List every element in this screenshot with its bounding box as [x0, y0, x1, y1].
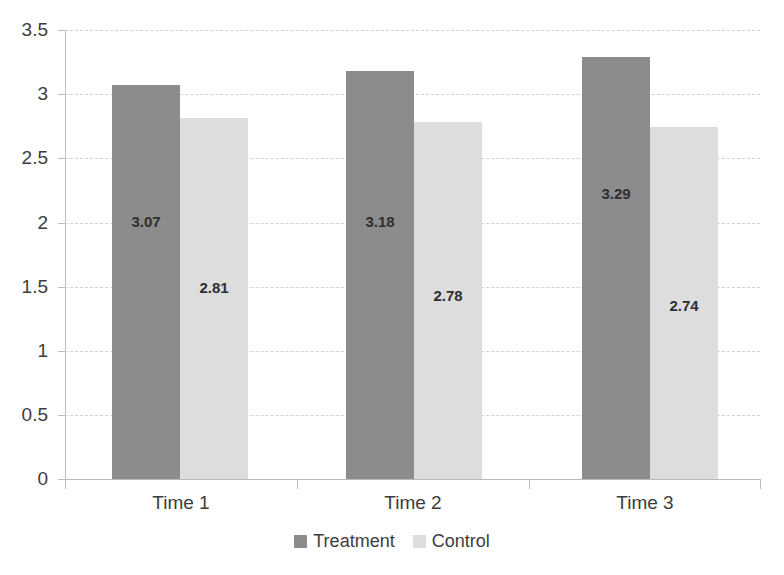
y-axis-label-2-5: 2.5	[0, 148, 48, 167]
y-axis-label-2: 2	[0, 213, 48, 232]
bar-control-time-1[interactable]: 2.81	[180, 118, 248, 479]
x-axis-line	[65, 479, 761, 480]
y-axis-label-3: 3	[0, 84, 48, 103]
x-axis-label-time-3: Time 3	[529, 492, 761, 514]
plot-area: 3.07 2.81 3.18 2.78 3.29 2.74	[65, 30, 760, 479]
x-axis-tick-2	[529, 479, 530, 489]
legend-item-control[interactable]: Control	[413, 531, 490, 552]
bar-value-control-time-3: 2.74	[650, 297, 718, 314]
x-axis-label-time-1: Time 1	[65, 492, 297, 514]
legend-label-control: Control	[432, 531, 490, 552]
bar-treatment-time-1[interactable]: 3.07	[112, 85, 180, 479]
chart-legend: Treatment Control	[0, 531, 784, 552]
bar-value-treatment-time-1: 3.07	[112, 213, 180, 230]
x-axis-tick-end	[760, 479, 761, 489]
legend-item-treatment[interactable]: Treatment	[294, 531, 394, 552]
bar-value-treatment-time-3: 3.29	[582, 185, 650, 202]
gridline-3-5	[65, 30, 760, 31]
bar-control-time-3[interactable]: 2.74	[650, 127, 718, 479]
y-axis-label-1-5: 1.5	[0, 277, 48, 296]
y-axis-label-0-5: 0.5	[0, 405, 48, 424]
x-axis-tick-1	[297, 479, 298, 489]
legend-swatch-control-icon	[413, 535, 426, 548]
x-axis-tick-start	[65, 479, 66, 489]
bar-value-treatment-time-2: 3.18	[346, 213, 414, 230]
bar-chart: 3.5 3 2.5 2 1.5 1 0.5 0 3.07 2.81 3.	[0, 0, 784, 575]
x-axis-label-time-2: Time 2	[297, 492, 529, 514]
bar-value-control-time-1: 2.81	[180, 279, 248, 296]
y-axis-label-0: 0	[0, 469, 48, 488]
legend-swatch-treatment-icon	[294, 535, 307, 548]
bar-control-time-2[interactable]: 2.78	[414, 122, 482, 479]
y-axis-label-1: 1	[0, 341, 48, 360]
bar-treatment-time-2[interactable]: 3.18	[346, 71, 414, 479]
y-axis-label-3-5: 3.5	[0, 20, 48, 39]
bar-value-control-time-2: 2.78	[414, 287, 482, 304]
bar-treatment-time-3[interactable]: 3.29	[582, 57, 650, 479]
legend-label-treatment: Treatment	[313, 531, 394, 552]
